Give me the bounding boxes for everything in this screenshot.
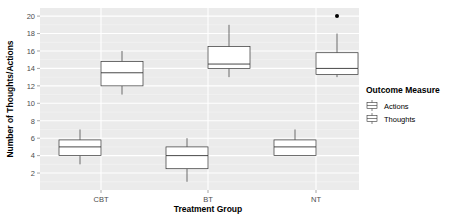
y-tick-label: 8: [31, 117, 35, 126]
legend: Outcome Measure ActionsThoughts: [366, 85, 440, 124]
y-tick-label: 20: [27, 12, 35, 21]
y-tick-label: 2: [31, 169, 35, 178]
legend-item-actions: Actions: [367, 100, 409, 111]
y-tick-label: 4: [31, 151, 35, 160]
y-tick-label: 18: [27, 29, 35, 38]
y-tick-label: 14: [27, 64, 35, 73]
y-axis: 2468101214161820: [27, 12, 40, 178]
x-axis: CBTBTNT: [94, 190, 322, 204]
legend-title: Outcome Measure: [366, 85, 440, 95]
x-tick-label: BT: [203, 195, 213, 204]
x-axis-label: Treatment Group: [174, 204, 242, 214]
y-tick-label: 10: [27, 99, 35, 108]
legend-item-thoughts: Thoughts: [367, 113, 416, 124]
x-tick-label: NT: [311, 195, 321, 204]
y-axis-label: Number of Thoughts/Actions: [5, 40, 15, 157]
legend-label: Actions: [384, 102, 409, 111]
y-tick-label: 12: [27, 82, 35, 91]
legend-label: Thoughts: [384, 115, 416, 124]
y-tick-label: 16: [27, 47, 35, 56]
boxplot-chart: 2468101214161820 CBTBTNT Number of Thoug…: [0, 0, 456, 222]
outlier-point: [335, 14, 339, 18]
x-tick-label: CBT: [94, 195, 109, 204]
y-tick-label: 6: [31, 134, 35, 143]
